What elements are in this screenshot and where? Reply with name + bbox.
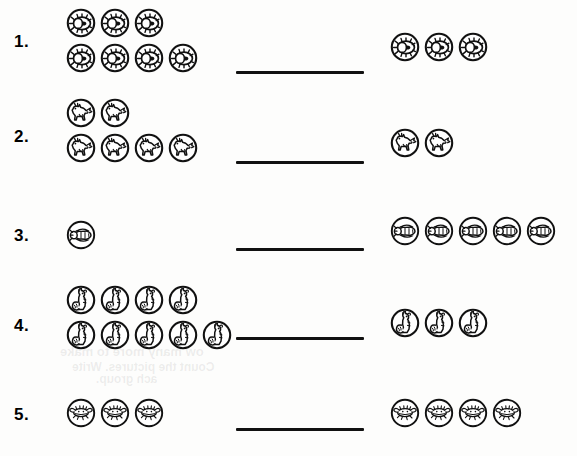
picture-row — [64, 283, 234, 317]
horse-icon — [98, 96, 132, 130]
picture-row — [64, 6, 200, 40]
problem-number: 4. — [14, 316, 29, 336]
squirrel-icon — [200, 318, 234, 352]
left-picture-group — [64, 396, 166, 430]
bleed-through-text: Count the pictures. Write — [72, 360, 214, 374]
bee-icon — [524, 214, 558, 248]
squirrel-icon — [388, 306, 422, 340]
picture-row — [64, 218, 98, 252]
answer-blank-line[interactable] — [236, 337, 364, 340]
answer-blank-line[interactable] — [236, 71, 364, 74]
worksheet-page: ow many more to makeCount the pictures. … — [0, 0, 577, 456]
squirrel-icon — [64, 318, 98, 352]
problem-number: 5. — [14, 405, 29, 425]
squirrel-icon — [132, 283, 166, 317]
bee-icon — [490, 214, 524, 248]
squirrel-icon — [166, 318, 200, 352]
picture-row — [388, 30, 490, 64]
beetle-icon — [132, 6, 166, 40]
picture-row — [64, 396, 166, 430]
bee-icon — [456, 214, 490, 248]
crab-icon — [64, 396, 98, 430]
bleed-through-text: ach group. — [96, 372, 157, 386]
beetle-icon — [98, 6, 132, 40]
right-picture-group — [388, 214, 558, 248]
answer-blank-line[interactable] — [236, 428, 364, 431]
right-picture-group — [388, 126, 456, 160]
squirrel-icon — [422, 306, 456, 340]
squirrel-icon — [98, 318, 132, 352]
squirrel-icon — [98, 283, 132, 317]
squirrel-icon — [456, 306, 490, 340]
problem-number: 1. — [14, 32, 29, 52]
picture-row — [64, 318, 234, 352]
beetle-icon — [388, 30, 422, 64]
crab-icon — [422, 396, 456, 430]
horse-icon — [64, 131, 98, 165]
picture-row — [388, 214, 558, 248]
picture-row — [388, 126, 456, 160]
horse-icon — [388, 126, 422, 160]
beetle-icon — [166, 41, 200, 75]
horse-icon — [98, 131, 132, 165]
left-picture-group — [64, 283, 234, 352]
problem-number: 2. — [14, 127, 29, 147]
horse-icon — [64, 96, 98, 130]
left-picture-group — [64, 6, 200, 75]
picture-row — [388, 396, 524, 430]
squirrel-icon — [64, 283, 98, 317]
left-picture-group — [64, 218, 98, 252]
beetle-icon — [132, 41, 166, 75]
beetle-icon — [456, 30, 490, 64]
horse-icon — [166, 131, 200, 165]
horse-icon — [132, 131, 166, 165]
beetle-icon — [64, 41, 98, 75]
bee-icon — [388, 214, 422, 248]
beetle-icon — [64, 6, 98, 40]
bee-icon — [422, 214, 456, 248]
picture-row — [64, 41, 200, 75]
squirrel-icon — [132, 318, 166, 352]
beetle-icon — [98, 41, 132, 75]
picture-row — [388, 306, 490, 340]
crab-icon — [388, 396, 422, 430]
bee-icon — [64, 218, 98, 252]
crab-icon — [132, 396, 166, 430]
picture-row — [64, 96, 200, 130]
right-picture-group — [388, 30, 490, 64]
problem-number: 3. — [14, 226, 29, 246]
beetle-icon — [422, 30, 456, 64]
right-picture-group — [388, 306, 490, 340]
crab-icon — [456, 396, 490, 430]
squirrel-icon — [166, 283, 200, 317]
answer-blank-line[interactable] — [236, 161, 364, 164]
picture-row — [64, 131, 200, 165]
horse-icon — [422, 126, 456, 160]
crab-icon — [490, 396, 524, 430]
crab-icon — [98, 396, 132, 430]
left-picture-group — [64, 96, 200, 165]
answer-blank-line[interactable] — [236, 248, 364, 251]
right-picture-group — [388, 396, 524, 430]
